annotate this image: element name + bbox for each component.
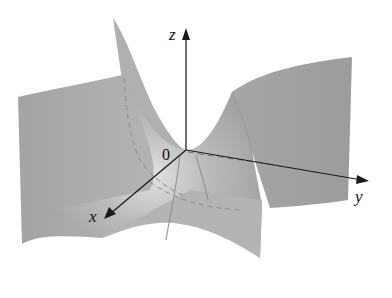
origin-label: 0 (162, 146, 170, 163)
z-axis-label: z (168, 25, 176, 44)
y-axis-label: y (353, 187, 363, 206)
y-axis-arrowhead (356, 175, 369, 184)
x-axis-label: x (88, 207, 97, 226)
z-axis-arrowhead (182, 28, 190, 40)
saddle-surface-diagram: z y x 0 (0, 0, 392, 298)
